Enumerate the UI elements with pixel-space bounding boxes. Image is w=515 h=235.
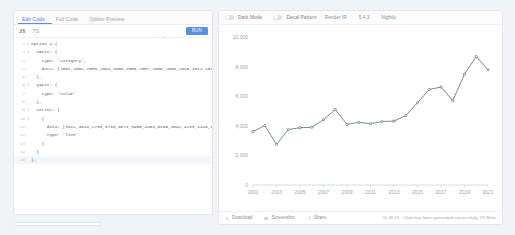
x-axis-tick-label: 2019 xyxy=(459,189,470,195)
dark-mode-label: Dark Mode xyxy=(238,15,262,20)
line-number: 3 xyxy=(14,57,27,65)
series-data-point[interactable] xyxy=(452,99,454,101)
code-line: 11 data: [3612,4014,2738,3746,3871,3900,… xyxy=(14,123,212,131)
echarts-playground: Edit Code Full Code Option Preview JS TS… xyxy=(0,0,515,235)
x-axis-tick-label: 2009 xyxy=(341,189,352,195)
series-data-point[interactable] xyxy=(299,126,301,128)
series-data-point[interactable] xyxy=(463,73,465,75)
tab-edit-code[interactable]: Edit Code xyxy=(18,17,52,25)
x-axis-tick-label: 2005 xyxy=(294,189,305,195)
code-text: }, xyxy=(31,73,44,81)
share-icon xyxy=(307,216,312,221)
y-axis-tick-label: 6,000 xyxy=(235,93,248,99)
series-data-point[interactable] xyxy=(381,120,383,122)
series-data-point[interactable] xyxy=(275,143,277,145)
series-data-point[interactable] xyxy=(487,68,489,70)
series-data-point[interactable] xyxy=(358,121,360,123)
line-number: 2 xyxy=(14,48,27,56)
series-data-point[interactable] xyxy=(405,114,407,116)
series-data-point[interactable] xyxy=(287,128,289,130)
camera-icon xyxy=(264,216,269,221)
code-line: 10 ▾ { xyxy=(14,115,212,123)
line-number: 8 xyxy=(14,98,27,106)
editor-toolbar: JS TS RUN xyxy=(14,25,212,38)
code-line: 15 }; xyxy=(14,156,212,164)
preview-footer: Download Screenshot Share 11:28:21 Chart… xyxy=(219,211,502,225)
y-axis-tick-label: 10,000 xyxy=(233,34,249,40)
series-data-point[interactable] xyxy=(311,126,313,128)
series-data-point[interactable] xyxy=(416,101,418,103)
series-data-point[interactable] xyxy=(322,118,324,120)
series-data-point[interactable] xyxy=(252,130,254,132)
code-text: type: 'category', xyxy=(31,57,88,65)
code-text: series: [ xyxy=(31,106,62,114)
code-line: 8 }, xyxy=(14,98,212,106)
share-label: Share xyxy=(314,215,326,220)
line-chart: 2,0004,0006,0008,00010,00002001200320052… xyxy=(219,25,502,211)
code-text: }; xyxy=(31,156,38,164)
series-data-point[interactable] xyxy=(393,119,395,121)
status-message: Chart has been generated successfully, 1… xyxy=(403,215,496,220)
build-selector[interactable]: Nightly xyxy=(377,15,400,20)
code-line: 7 type: 'value' xyxy=(14,90,212,98)
editor-bottom-strip xyxy=(13,222,101,226)
run-button[interactable]: RUN xyxy=(186,27,208,36)
line-number: 14 xyxy=(14,148,27,156)
x-axis-tick-label: 2015 xyxy=(412,189,423,195)
download-button[interactable]: Download xyxy=(225,215,252,220)
editor-toolbar-left: JS TS xyxy=(19,28,39,34)
share-button[interactable]: Share xyxy=(307,215,326,220)
line-number: 15 xyxy=(14,156,27,164)
series-data-point[interactable] xyxy=(369,122,371,124)
tab-full-code[interactable]: Full Code xyxy=(52,17,85,24)
code-line: 2 ▾ xAxis: { xyxy=(14,48,212,56)
typescript-toggle[interactable]: TS xyxy=(32,28,39,34)
series-data-point[interactable] xyxy=(264,124,266,126)
series-data-point[interactable] xyxy=(428,88,430,90)
renderer-selector[interactable]: Render IR xyxy=(321,15,351,20)
code-text: data: [3612,4014,2738,3746,3871,3900,440… xyxy=(31,123,212,131)
code-line: 4 data: [2001,2002,2003,2004,2005,2006,2… xyxy=(14,65,212,73)
y-axis-tick-label: 4,000 xyxy=(235,122,248,128)
decal-pattern-toggle[interactable] xyxy=(273,15,282,20)
preview-header: Dark Mode Decal Pattern Render IR 5.4.3 … xyxy=(219,11,502,25)
y-axis-tick-label: 2,000 xyxy=(235,152,248,158)
theme-icon[interactable] xyxy=(162,28,168,34)
code-line: 3 type: 'category', xyxy=(14,57,212,65)
line-number: 13 xyxy=(14,140,27,148)
code-line: 6 ▾ yAxis: { xyxy=(14,81,212,89)
code-text: }, xyxy=(31,98,44,106)
code-text: option = { xyxy=(31,40,59,48)
x-axis-tick-label: 2017 xyxy=(435,189,446,195)
code-line: 1 ▾ option = { xyxy=(14,40,212,48)
screenshot-button[interactable]: Screenshot xyxy=(264,215,294,220)
x-axis-tick-label: 2003 xyxy=(271,189,282,195)
line-number: 11 xyxy=(14,123,27,131)
format-icon[interactable] xyxy=(150,28,156,34)
download-label: Download xyxy=(232,215,252,220)
code-text: } xyxy=(31,140,46,148)
code-text: { xyxy=(31,115,46,123)
series-data-point[interactable] xyxy=(440,85,442,87)
code-editor-panel: Edit Code Full Code Option Preview JS TS… xyxy=(13,10,213,215)
editor-toolbar-right: RUN xyxy=(150,27,208,36)
tab-option-preview[interactable]: Option Preview xyxy=(85,17,131,24)
line-number: 1 xyxy=(14,40,27,48)
dark-mode-toggle[interactable] xyxy=(225,15,234,20)
line-number: 9 xyxy=(14,106,27,114)
x-axis-tick-label: 2013 xyxy=(388,189,399,195)
expand-icon[interactable] xyxy=(174,28,180,34)
chart-canvas[interactable]: 2,0004,0006,0008,00010,00002001200320052… xyxy=(219,25,502,211)
series-data-point[interactable] xyxy=(334,108,336,110)
y-axis-tick-label: 8,000 xyxy=(235,63,248,69)
code-line: 13 } xyxy=(14,140,212,148)
series-data-point[interactable] xyxy=(346,123,348,125)
version-selector[interactable]: 5.4.3 xyxy=(355,15,374,20)
x-axis-tick-label: 2001 xyxy=(247,189,258,195)
code-area[interactable]: 1 ▾ option = { 2 ▾ xAxis: { 3 type: 'cat… xyxy=(14,38,212,214)
code-text: type: 'line' xyxy=(31,131,80,139)
x-axis-tick-label: 2011 xyxy=(365,189,376,195)
x-axis-tick-label: 2007 xyxy=(318,189,329,195)
code-text: type: 'value' xyxy=(31,90,78,98)
series-data-point[interactable] xyxy=(475,55,477,57)
